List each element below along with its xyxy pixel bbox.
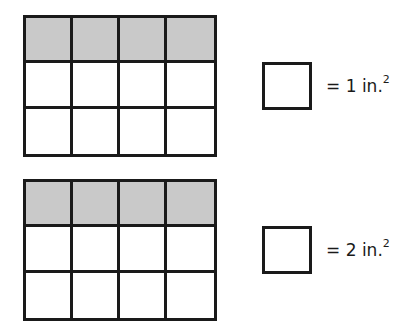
grid-cell (26, 273, 73, 318)
legend-label-1: = 1 in.2 (326, 75, 390, 96)
grid-cell (120, 63, 167, 108)
grid-cell (120, 227, 167, 272)
grid-cell (73, 273, 120, 318)
grid-cell (167, 227, 214, 272)
grid-cell (26, 182, 73, 227)
legend-label-2: = 2 in.2 (326, 239, 390, 260)
grid-cell (167, 182, 214, 227)
grid-cell (26, 63, 73, 108)
area-grid-2 (23, 179, 217, 321)
grid-cell (120, 18, 167, 63)
grid-cell (167, 18, 214, 63)
grid-cell (120, 109, 167, 154)
grid-cell (73, 109, 120, 154)
unit-square-legend-2 (262, 226, 312, 274)
grid-cell (73, 182, 120, 227)
grid-cell (167, 63, 214, 108)
grid-cell (120, 273, 167, 318)
grid-cell (167, 273, 214, 318)
grid-cell (73, 63, 120, 108)
grid-cell (73, 18, 120, 63)
area-grid-1 (23, 15, 217, 157)
grid-cell (26, 18, 73, 63)
grid-cell (26, 109, 73, 154)
unit-square-legend-1 (262, 62, 312, 110)
grid-cell (167, 109, 214, 154)
grid-cell (120, 182, 167, 227)
grid-cell (73, 227, 120, 272)
grid-cell (26, 227, 73, 272)
